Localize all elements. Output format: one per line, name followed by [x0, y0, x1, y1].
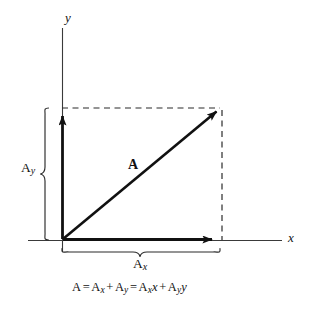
caption-by-main: A — [168, 280, 177, 294]
caption-plus-1: + — [105, 280, 115, 294]
caption-unit-x: x — [152, 280, 158, 294]
x-component-label-sub: x — [143, 261, 147, 272]
vector-decomposition-figure: y x A Ay Ax A=Ax+Ay=Axx+Ayy — [0, 0, 310, 313]
y-component-label-main: A — [21, 160, 31, 175]
caption-unit-y: y — [181, 280, 187, 294]
y-component-brace — [41, 108, 49, 240]
x-component-label-main: A — [133, 256, 143, 271]
caption-equals-1: = — [81, 280, 91, 294]
caption-a: A — [72, 280, 81, 294]
caption-ay-main: A — [115, 280, 124, 294]
y-component-label-sub: y — [31, 165, 35, 176]
resultant-vector-label: A — [128, 158, 138, 172]
caption-equation: A=Ax+Ay=Axx+Ayy — [72, 281, 187, 296]
caption-plus-2: + — [158, 280, 168, 294]
caption-equals-2: = — [128, 280, 138, 294]
x-component-label: Ax — [133, 257, 147, 272]
y-axis-label: y — [65, 11, 71, 24]
y-component-label: Ay — [21, 161, 35, 176]
x-axis-label: x — [288, 231, 294, 244]
figure-canvas — [0, 0, 310, 313]
caption-bx-main: A — [139, 280, 148, 294]
resultant-vector-arrow — [63, 112, 217, 240]
